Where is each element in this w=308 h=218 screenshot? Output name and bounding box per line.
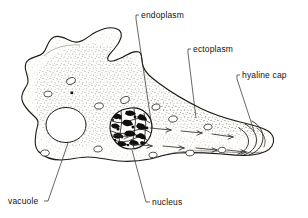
nucleus: [110, 108, 152, 149]
granule-dot: [71, 92, 74, 95]
amoeba-diagram: endoplasm ectoplasm hyaline cap vacuole …: [0, 0, 308, 218]
diagram-canvas: endoplasm ectoplasm hyaline cap vacuole …: [0, 0, 308, 218]
label-vacuole: vacuole: [8, 196, 38, 206]
cytoplasm-textures: [18, 24, 280, 164]
label-endoplasm: endoplasm: [141, 10, 184, 20]
contractile-vacuole: [46, 108, 86, 143]
label-nucleus: nucleus: [152, 197, 182, 207]
label-ectoplasm: ectoplasm: [193, 44, 233, 54]
label-hyaline-cap: hyaline cap: [242, 70, 287, 80]
